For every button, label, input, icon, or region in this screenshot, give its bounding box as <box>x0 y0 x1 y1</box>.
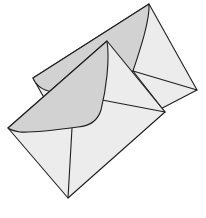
front-envelope-flap <box>8 41 108 132</box>
envelopes-illustration: Line drawing of two overlapping envelope… <box>0 0 206 218</box>
envelopes-drawing <box>0 0 206 218</box>
